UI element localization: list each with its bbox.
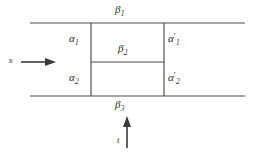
- label-beta3: β3: [115, 99, 124, 110]
- label-beta1: β1: [115, 4, 124, 15]
- label-alpha1-prime: α′1: [168, 33, 180, 44]
- label-alpha2-prime: α′2: [168, 72, 180, 83]
- t-arrow-icon: [123, 116, 131, 148]
- label-alpha1: α1: [69, 33, 79, 44]
- label-alpha2: α2: [69, 72, 79, 83]
- label-t: t: [117, 136, 120, 145]
- s-arrow-icon: [21, 58, 56, 66]
- diagram-canvas: β1 β2 β3 α1 α2 α′1 α′2 s t: [0, 0, 257, 153]
- diagram-lines: [0, 0, 257, 153]
- label-s: s: [9, 56, 13, 65]
- label-beta2: β2: [118, 43, 127, 54]
